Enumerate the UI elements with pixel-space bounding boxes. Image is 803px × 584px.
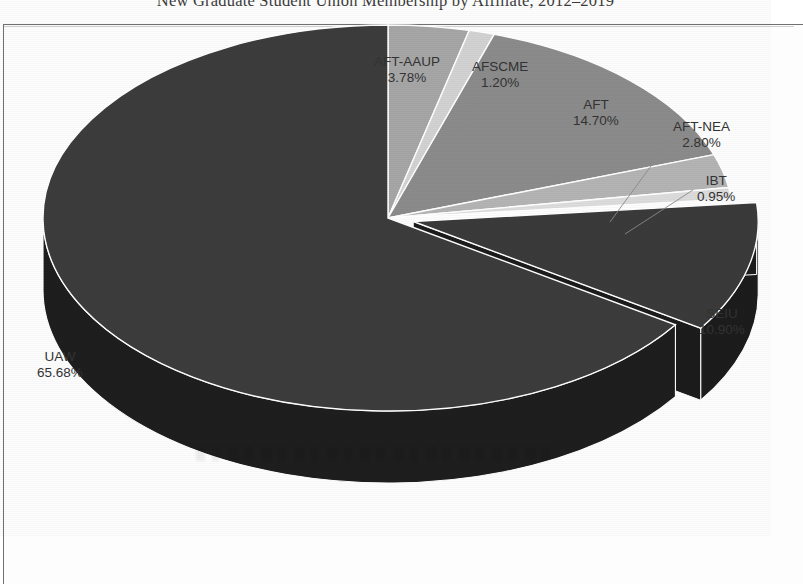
slice-label-ibt-value: 0.95% bbox=[697, 189, 735, 205]
slice-label-aft-aaup-value: 3.78% bbox=[374, 70, 440, 86]
slice-label-aft-aaup-name: AFT-AAUP bbox=[374, 54, 440, 70]
slice-label-uaw-value: 65.68% bbox=[37, 365, 83, 381]
slice-label-uaw-name: UAW bbox=[37, 349, 83, 365]
slice-label-seiu-value: 10.90% bbox=[699, 322, 745, 338]
slice-label-aft: AFT 14.70% bbox=[573, 97, 619, 128]
slice-label-aft-nea: AFT-NEA 2.80% bbox=[673, 119, 730, 150]
slice-label-seiu: SEIU 10.90% bbox=[699, 306, 745, 337]
slice-label-ibt: IBT 0.95% bbox=[697, 173, 735, 204]
slice-label-afscme-name: AFSCME bbox=[472, 59, 528, 75]
slice-label-afscme-value: 1.20% bbox=[472, 75, 528, 91]
slice-label-uaw: UAW 65.68% bbox=[37, 349, 83, 380]
slice-label-afscme: AFSCME 1.20% bbox=[472, 59, 528, 90]
slice-label-aft-nea-value: 2.80% bbox=[673, 135, 730, 151]
slice-label-aft-value: 14.70% bbox=[573, 113, 619, 129]
slice-label-ibt-name: IBT bbox=[697, 173, 735, 189]
slice-label-seiu-name: SEIU bbox=[699, 306, 745, 322]
slice-label-aft-name: AFT bbox=[573, 97, 619, 113]
slice-label-aft-aaup: AFT-AAUP 3.78% bbox=[374, 54, 440, 85]
slice-label-aft-nea-name: AFT-NEA bbox=[673, 119, 730, 135]
scan-bleed-artifact bbox=[196, 447, 556, 461]
